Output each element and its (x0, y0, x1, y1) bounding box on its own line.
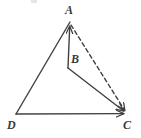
vertex-label-d: D (7, 119, 16, 131)
vertex-label-c: C (123, 119, 131, 131)
vertex-label-b: B (71, 53, 79, 65)
segment-B-to-A (68, 27, 70, 69)
segment-B-to-C (68, 68, 123, 111)
segment-A-to-C (71, 25, 125, 110)
vertex-label-a: A (65, 4, 73, 16)
segment-D-to-A (16, 22, 70, 114)
diagram-canvas (0, 0, 141, 138)
geometry-diagram: A B D C (0, 0, 141, 138)
